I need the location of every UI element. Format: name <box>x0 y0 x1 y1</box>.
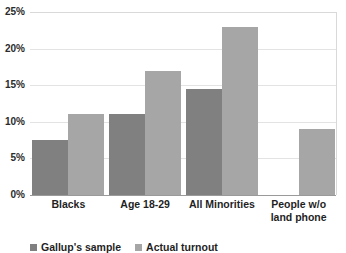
gridline-0 <box>30 195 336 196</box>
bar <box>222 27 258 195</box>
x-axis-category-labels: BlacksAge 18-29All MinoritiesPeople w/ol… <box>30 198 337 232</box>
legend-swatch-icon <box>30 244 37 251</box>
x-axis-category-label: All Minorities <box>184 198 261 211</box>
y-axis-tick-label: 0% <box>11 190 25 200</box>
bar-group <box>263 12 335 195</box>
x-axis-category-label: Blacks <box>30 198 107 211</box>
legend-label: Actual turnout <box>146 241 218 253</box>
legend-label: Gallup's sample <box>41 241 121 253</box>
bar <box>32 140 68 195</box>
x-axis-category-label: Age 18-29 <box>107 198 184 211</box>
bar-group <box>186 12 258 195</box>
x-axis-category-label-line: Age 18-29 <box>107 198 184 211</box>
bars-layer <box>30 12 336 195</box>
bar <box>68 114 104 195</box>
x-axis-category-label-line: Blacks <box>30 198 107 211</box>
bar-group <box>109 12 181 195</box>
y-axis-tick-label: 25% <box>5 7 25 17</box>
plot-area: 25%20%15%10%5%0% <box>30 12 337 195</box>
x-axis-category-label: People w/oland phone <box>260 198 337 224</box>
bar-group <box>32 12 104 195</box>
legend-item[interactable]: Actual turnout <box>135 241 218 253</box>
x-axis-category-label-line: All Minorities <box>184 198 261 211</box>
bar <box>299 129 335 195</box>
bar <box>186 89 222 195</box>
y-axis-tick-label: 20% <box>5 44 25 54</box>
chart-legend: Gallup's sampleActual turnout <box>30 241 218 253</box>
y-axis-tick-label: 5% <box>11 153 25 163</box>
bar <box>109 114 145 195</box>
bar <box>145 71 181 195</box>
legend-swatch-icon <box>135 244 142 251</box>
x-axis-category-label-line: People w/o <box>260 198 337 211</box>
y-axis-tick-label: 10% <box>5 117 25 127</box>
legend-item[interactable]: Gallup's sample <box>30 241 121 253</box>
y-axis-tick-label: 15% <box>5 80 25 90</box>
x-axis-category-label-line: land phone <box>260 211 337 224</box>
